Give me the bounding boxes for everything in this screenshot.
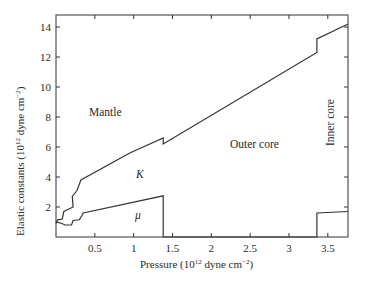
y-tick-label: 8 [46,111,52,123]
x-tick-label: 1.5 [166,242,180,254]
series-line-k [56,24,348,224]
region-label-outer-core: Outer core [230,138,279,150]
series-label-k: K [135,168,145,180]
data-curves [56,24,348,237]
y-tick-label: 4 [46,171,52,183]
y-tick-label: 10 [40,81,52,93]
region-label-mantle: Mantle [89,106,122,118]
region-label-inner-core: Inner core [324,99,336,146]
x-tick-label: 2.5 [243,242,257,254]
x-tick-label: 3 [286,242,292,254]
y-axis-title: Elastic constants (1012 dyne cm−2) [14,86,27,236]
x-tick-label: 3.5 [321,242,335,254]
series-line-mu [56,196,348,237]
y-tick-label: 2 [46,201,52,213]
elastic-constants-chart: 0.511.522.533.52468101214 Mantle Outer c… [0,0,366,286]
y-tick-label: 6 [46,141,52,153]
x-tick-label: 2 [209,242,215,254]
y-tick-label: 12 [40,51,51,63]
y-tick-label: 14 [40,21,52,33]
axis-tick-labels: 0.511.522.533.52468101214 [40,21,335,254]
x-axis-title: Pressure (1012 dyne cm−2) [140,258,253,271]
plot-frame [56,15,348,237]
x-tick-label: 1 [131,242,137,254]
axis-ticks [56,15,348,237]
series-label-mu: μ [134,209,141,222]
x-tick-label: 0.5 [88,242,102,254]
